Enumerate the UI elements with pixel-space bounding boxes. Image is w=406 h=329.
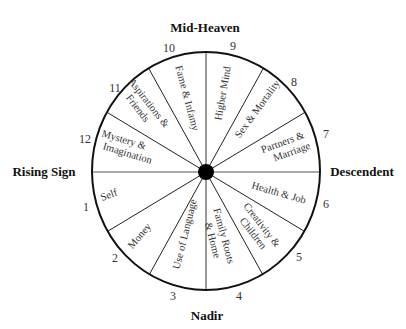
house-label-9: Higher Mind — [212, 65, 232, 121]
house-label-7: Partners & Marriage — [259, 128, 312, 166]
house-label-12: Mystery & Imagination — [97, 128, 158, 166]
house-label-5: Creativity & Children — [232, 201, 284, 259]
house-number-12: 12 — [79, 132, 91, 146]
house-label-10: Fame & Infamy — [173, 64, 201, 132]
house-number-10: 10 — [163, 41, 175, 55]
house-number-1: 1 — [83, 200, 89, 214]
cardinal-mid-heaven: Mid-Heaven — [170, 20, 240, 35]
house-number-4: 4 — [236, 289, 242, 303]
house-label-6: Health & Job — [251, 180, 308, 206]
house-label-2: Money — [126, 220, 154, 250]
house-label-3: Use of Language — [171, 198, 199, 271]
house-label-1: Self — [99, 186, 119, 202]
cardinal-nadir: Nadir — [191, 308, 224, 323]
house-number-8: 8 — [291, 75, 297, 89]
house-number-11: 11 — [109, 81, 121, 95]
house-number-3: 3 — [170, 289, 176, 303]
center-dot — [198, 164, 214, 180]
cardinal-descendent: Descendent — [330, 164, 394, 179]
house-number-9: 9 — [230, 39, 236, 53]
house-number-5: 5 — [296, 250, 302, 264]
house-number-7: 7 — [323, 127, 329, 141]
astrological-houses-wheel: Mid-Heaven Nadir Rising Sign Descendent … — [0, 0, 406, 329]
house-number-2: 2 — [112, 251, 118, 265]
cardinal-rising-sign: Rising Sign — [12, 164, 76, 179]
house-number-6: 6 — [323, 197, 329, 211]
